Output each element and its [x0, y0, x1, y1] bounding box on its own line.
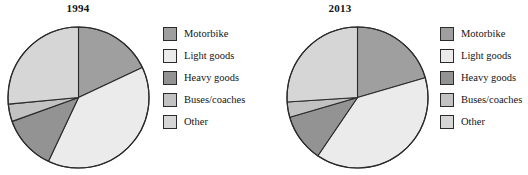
legend-swatch-other — [163, 115, 177, 129]
pie-slice-other[interactable] — [8, 27, 79, 104]
legend-swatch-motorbike — [440, 27, 454, 41]
legend-label-motorbike: Motorbike — [184, 29, 228, 40]
legend-item-motorbike[interactable]: Motorbike — [440, 23, 522, 45]
legend-swatch-motorbike — [163, 27, 177, 41]
pie-svg-1994 — [7, 26, 150, 169]
legend-item-heavy-goods[interactable]: Heavy goods — [163, 67, 245, 89]
legend-2013: Motorbike Light goods Heavy goods Buses/… — [440, 23, 522, 133]
legend-label-buses-coaches: Buses/coaches — [461, 95, 522, 106]
legend-label-other: Other — [461, 117, 485, 128]
legend-swatch-light-goods — [440, 49, 454, 63]
legend-item-light-goods[interactable]: Light goods — [163, 45, 245, 67]
legend-item-other[interactable]: Other — [440, 111, 522, 133]
legend-swatch-buses-coaches — [440, 93, 454, 107]
pie-slices-1994 — [8, 27, 149, 168]
legend-item-buses-coaches[interactable]: Buses/coaches — [440, 89, 522, 111]
legend-item-other[interactable]: Other — [163, 111, 245, 133]
chart-title-2013: 2013 — [265, 2, 415, 14]
legend-label-light-goods: Light goods — [461, 51, 511, 62]
legend-item-heavy-goods[interactable]: Heavy goods — [440, 67, 522, 89]
chart-title-1994: 1994 — [3, 2, 153, 14]
pie-slice-other[interactable] — [287, 27, 357, 102]
legend-swatch-light-goods — [163, 49, 177, 63]
legend-label-heavy-goods: Heavy goods — [461, 73, 516, 84]
pie-svg-2013 — [286, 26, 429, 169]
legend-swatch-buses-coaches — [163, 93, 177, 107]
legend-label-buses-coaches: Buses/coaches — [184, 95, 245, 106]
legend-1994: Motorbike Light goods Heavy goods Buses/… — [163, 23, 245, 133]
legend-label-motorbike: Motorbike — [461, 29, 505, 40]
legend-swatch-heavy-goods — [163, 71, 177, 85]
chart-panel-2013: 2013 Motorbike Light goods Heavy goods — [264, 0, 528, 175]
legend-label-heavy-goods: Heavy goods — [184, 73, 239, 84]
pie-chart-figure: 1994 Motorbike Light goods Heavy goods — [0, 0, 528, 175]
legend-label-light-goods: Light goods — [184, 51, 234, 62]
legend-swatch-heavy-goods — [440, 71, 454, 85]
legend-label-other: Other — [184, 117, 208, 128]
legend-item-motorbike[interactable]: Motorbike — [163, 23, 245, 45]
legend-item-light-goods[interactable]: Light goods — [440, 45, 522, 67]
pie-1994 — [7, 26, 150, 173]
legend-swatch-other — [440, 115, 454, 129]
legend-item-buses-coaches[interactable]: Buses/coaches — [163, 89, 245, 111]
chart-panel-1994: 1994 Motorbike Light goods Heavy goods — [0, 0, 264, 175]
pie-2013 — [286, 26, 429, 173]
pie-slices-2013 — [287, 27, 428, 168]
